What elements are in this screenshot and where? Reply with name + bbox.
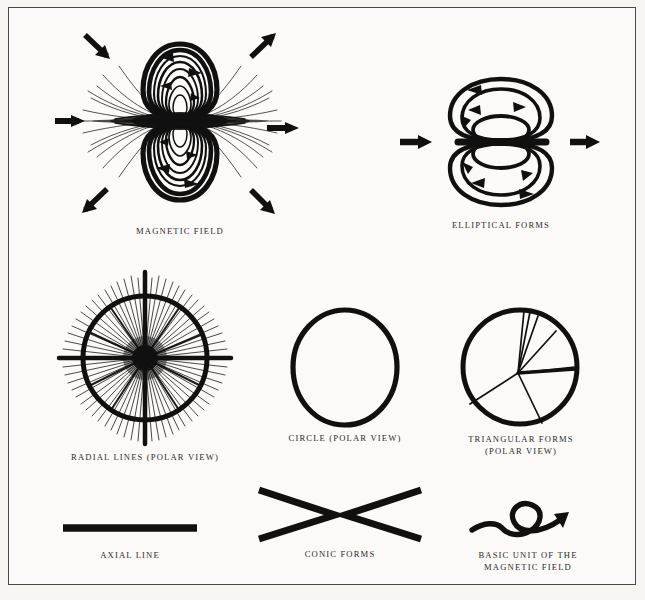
caption-circle-polar-view: CIRCLE (POLAR VIEW) [260,433,430,445]
looping-curve [472,504,560,535]
triangular-forms-drawing [458,303,583,431]
axial-line-drawing [60,520,200,536]
upper-lobe-loops [143,44,217,118]
basic-unit-drawing [468,498,588,546]
figure-axial-line: AXIAL LINE [60,520,200,536]
arrow-in-left [55,115,85,127]
figure-radial-lines: RADIAL LINES (POLAR VIEW) [55,268,235,448]
caption-axial-line: AXIAL LINE [50,550,210,562]
upper-ellipse-lobe [450,79,552,144]
plate-page: MAGNETIC FIELD [0,0,645,600]
caption-radial-lines: RADIAL LINES (POLAR VIEW) [40,452,250,464]
arrow-out-upper-right [251,33,276,57]
caption-conic-forms: CONIC FORMS [250,549,430,561]
figure-basic-unit: BASIC UNIT OF THE MAGNETIC FIELD [468,498,588,546]
figure-magnetic-field: MAGNETIC FIELD [55,20,305,225]
caption-basic-unit: BASIC UNIT OF THE MAGNETIC FIELD [440,550,616,573]
right-chevron [345,490,421,539]
caption-elliptical-forms: ELLIPTICAL FORMS [398,220,604,232]
elliptical-forms-drawing [398,60,604,220]
caption-triangular-forms: TRIANGULAR FORMS (POLAR VIEW) [436,434,606,457]
circle-polar-drawing [285,305,405,430]
left-chevron [259,490,335,539]
arrow-in-lower-right [251,190,275,214]
magnetic-field-drawing [55,20,305,225]
conic-forms-drawing [255,487,425,542]
arrow-right [570,135,600,149]
arrow-left [400,135,432,149]
radial-lines-drawing [55,268,235,448]
arrow-in-upper-left [85,35,110,59]
figure-triangular-forms: TRIANGULAR FORMS (POLAR VIEW) [458,303,583,431]
caption-magnetic-field: MAGNETIC FIELD [55,226,305,238]
hand-drawn-circle [293,310,397,425]
figure-circle-polar-view: CIRCLE (POLAR VIEW) [285,305,405,430]
figure-elliptical-forms: ELLIPTICAL FORMS [398,60,604,220]
arrow-out-lower-left [82,189,107,213]
lower-ellipse-lobe [450,140,552,205]
lower-lobe-loops [143,124,217,200]
figure-conic-forms: CONIC FORMS [255,487,425,542]
